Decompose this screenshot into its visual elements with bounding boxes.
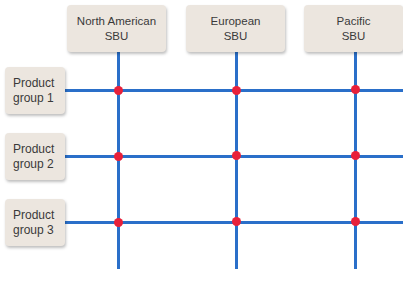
intersection-node-r1-c2 xyxy=(232,86,241,95)
intersection-node-r3-c2 xyxy=(232,217,241,226)
column-header-line2: SBU xyxy=(224,29,248,44)
column-header-line1: Pacific xyxy=(337,14,371,29)
intersection-node-r3-c3 xyxy=(351,217,360,226)
row-header-line2: group 1 xyxy=(13,91,54,106)
row-header-product-group-3: Product group 3 xyxy=(5,199,65,246)
intersection-node-r1-c1 xyxy=(114,86,123,95)
row-header-line2: group 2 xyxy=(13,157,54,172)
intersection-node-r1-c3 xyxy=(351,85,360,94)
column-line-european xyxy=(235,52,238,269)
row-header-product-group-1: Product group 1 xyxy=(5,67,65,114)
intersection-node-r3-c1 xyxy=(114,218,123,227)
column-header-line2: SBU xyxy=(342,29,366,44)
column-header-line1: European xyxy=(211,14,261,29)
column-header-line2: SBU xyxy=(105,29,129,44)
row-header-line1: Product xyxy=(13,76,54,91)
column-header-line1: North American xyxy=(77,14,156,29)
intersection-node-r2-c3 xyxy=(351,151,360,160)
row-header-line1: Product xyxy=(13,208,54,223)
intersection-node-r2-c1 xyxy=(114,152,123,161)
column-header-north-american-sbu: North American SBU xyxy=(67,5,166,52)
row-header-product-group-2: Product group 2 xyxy=(5,133,65,180)
column-header-european-sbu: European SBU xyxy=(186,5,285,52)
intersection-node-r2-c2 xyxy=(232,151,241,160)
column-header-pacific-sbu: Pacific SBU xyxy=(304,5,403,52)
row-header-line2: group 3 xyxy=(13,223,54,238)
row-header-line1: Product xyxy=(13,142,54,157)
